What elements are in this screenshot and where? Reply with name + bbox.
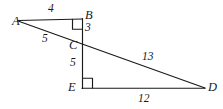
length-label-ed: 12 xyxy=(138,93,150,105)
geometry-figure: A B C E D 4 3 5 5 13 12 xyxy=(0,0,223,109)
vertex-label-b: B xyxy=(85,9,93,22)
diagram-canvas xyxy=(0,0,223,109)
length-label-ac: 5 xyxy=(42,33,48,45)
vertex-label-e: E xyxy=(68,81,76,94)
length-label-cd: 13 xyxy=(142,51,154,63)
length-label-ce: 5 xyxy=(70,57,76,69)
length-label-bc: 3 xyxy=(85,22,91,34)
right-angle-marker-e xyxy=(83,78,93,88)
length-label-ab: 4 xyxy=(48,3,54,15)
vertex-label-d: D xyxy=(208,81,217,94)
vertex-label-c: C xyxy=(69,39,77,52)
right-angle-marker-b xyxy=(73,19,83,29)
vertex-label-a: A xyxy=(12,15,20,28)
